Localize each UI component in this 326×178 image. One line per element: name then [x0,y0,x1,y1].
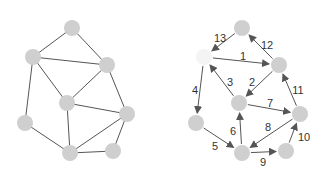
edge-label: 6 [230,125,236,137]
node-F [188,115,204,131]
edge-label: 5 [212,140,218,152]
edge-label: 12 [261,39,273,51]
edge-label: 4 [192,84,198,96]
edge-label: 1 [240,50,246,62]
node-D [59,95,75,111]
edge-G-D [240,113,242,144]
node-H [278,143,294,159]
node-E [119,106,135,122]
node-H [105,143,121,159]
edge-label: 9 [260,156,266,168]
node-G [234,145,250,161]
edge-label: 10 [298,131,310,143]
directed-numbered-graph: 12345678910111213 [188,20,310,168]
diagram-canvas: 12345678910111213 [0,0,326,178]
node-G [62,145,78,161]
edge-label: 2 [249,76,255,88]
edge-F-G [25,123,70,153]
node-F [17,115,33,131]
node-A [234,20,250,36]
edge-label: 11 [292,84,303,96]
edge-H-E [289,123,296,142]
edge-C-D [67,65,107,103]
edge-B-C [33,57,107,65]
node-C [99,57,115,73]
node-E [292,106,308,122]
undirected-graph [17,20,135,161]
node-D [231,95,247,111]
node-B [196,49,212,65]
edge-label: 3 [227,76,233,88]
edge-label: 13 [214,32,226,44]
node-B [25,49,41,65]
edge-B-D [33,57,67,103]
edge-D-E [67,103,127,114]
edge-B-F [25,57,33,123]
edge-label: 8 [265,121,271,133]
node-C [271,57,287,73]
node-A [64,20,80,36]
edge-label: 7 [267,97,273,109]
edge-G-H [251,151,276,152]
